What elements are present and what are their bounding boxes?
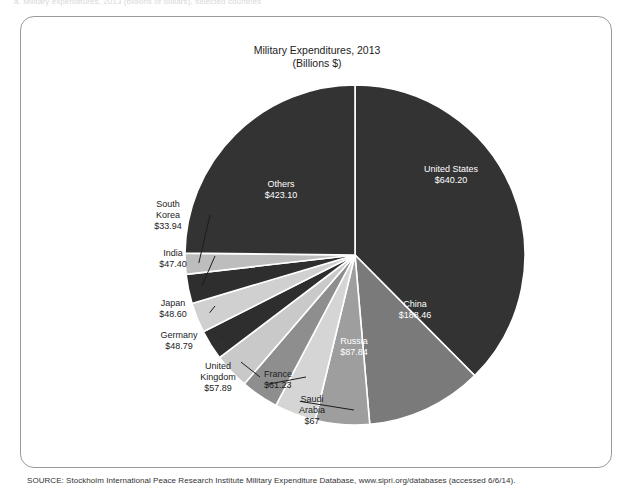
pie-slice-label: Others$423.10 — [265, 179, 298, 200]
pie-slices-group — [185, 85, 525, 425]
pie-slice-label: UnitedKingdom$57.89 — [200, 361, 236, 393]
pie-slice-label: SouthKorea$33.94 — [154, 199, 182, 231]
ghost-caption-text: a. Military expenditures, 2013 (billions… — [14, 0, 261, 6]
pie-slice-label: China$188.46 — [399, 299, 432, 320]
scan-top-caption-strip: a. Military expenditures, 2013 (billions… — [0, 0, 632, 13]
pie-slice-label: India$47.40 — [159, 248, 187, 269]
pie-slice-label: France$61.23 — [264, 369, 292, 390]
source-note: SOURCE: Stockholm International Peace Re… — [27, 476, 516, 485]
pie-slice-label: Japan$48.60 — [159, 298, 187, 319]
chart-card: Military Expenditures, 2013 (Billions $)… — [20, 16, 612, 468]
pie-slice-label: Russia$87.84 — [340, 336, 368, 357]
pie-chart: United States$640.20China$188.46Russia$8… — [21, 17, 613, 469]
pie-slice-label: Germany$48.79 — [160, 330, 198, 351]
pie-slice[interactable] — [185, 85, 355, 255]
pie-chart-svg: United States$640.20China$188.46Russia$8… — [21, 17, 613, 469]
